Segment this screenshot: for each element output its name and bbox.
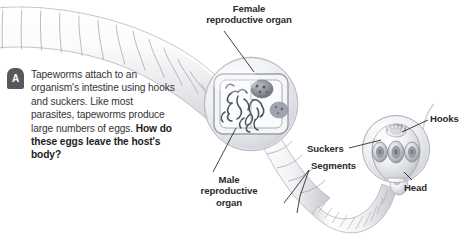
label-female-line2: reproductive organ: [188, 14, 310, 25]
label-male-line3: organ: [186, 197, 272, 208]
label-head: Head: [404, 182, 427, 193]
label-hooks: Hooks: [430, 113, 459, 124]
suckers-group: [373, 141, 420, 163]
female-organ-inset: [204, 57, 298, 151]
caption-text: Tapeworms attach to an organism's intest…: [31, 67, 175, 162]
label-male-line1: Male: [186, 174, 272, 185]
tapeworm-neck: [312, 184, 396, 233]
tapeworm-diagram-figure: A Tapeworms attach to an organism's inte…: [0, 0, 466, 246]
label-male-reproductive-organ: Male reproductive organ: [186, 174, 272, 208]
caption-block: A Tapeworms attach to an organism's inte…: [7, 67, 175, 162]
label-segments: Segments: [311, 160, 356, 171]
label-male-line2: reproductive: [186, 185, 272, 196]
label-female-line1: Female: [188, 3, 310, 14]
label-female-reproductive-organ: Female reproductive organ: [188, 3, 310, 26]
caption-badge-a: A: [7, 68, 24, 89]
label-suckers: Suckers: [307, 143, 344, 154]
